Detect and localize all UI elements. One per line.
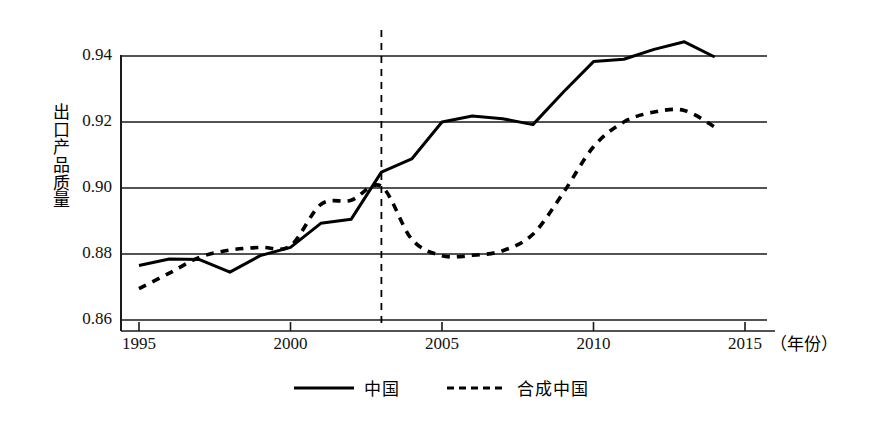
export-quality-line-chart: 出 口 产 品 质 量 0.860.880.900.920.94 1995200… <box>0 0 882 424</box>
legend-dashed-line-icon <box>446 382 508 394</box>
x-axis-ticks <box>139 322 745 331</box>
legend-solid-line-icon <box>293 382 355 394</box>
legend-item-synthetic-china: 合成中国 <box>446 375 589 400</box>
x-tick-label: 2010 <box>559 334 629 354</box>
axis-frame <box>121 55 775 331</box>
y-axis-label-char: 品 <box>48 157 74 175</box>
legend-label-synthetic-china: 合成中国 <box>517 375 589 400</box>
x-tick-label: 2005 <box>407 334 477 354</box>
legend-label-china: 中国 <box>364 375 400 400</box>
x-axis-unit-label: （年份） <box>770 330 838 355</box>
chart-legend: 中国 合成中国 <box>0 375 882 400</box>
y-tick-label: 0.92 <box>52 111 112 131</box>
y-axis-label-char: 产 <box>48 139 74 157</box>
x-tick-label: 2000 <box>256 334 326 354</box>
gridlines <box>121 56 767 320</box>
y-tick-label: 0.88 <box>52 243 112 263</box>
chart-canvas <box>0 0 882 424</box>
data-series-group <box>139 42 715 289</box>
y-tick-label: 0.90 <box>52 177 112 197</box>
y-tick-label: 0.86 <box>52 309 112 329</box>
series-line-china <box>139 42 715 272</box>
y-tick-label: 0.94 <box>52 45 112 65</box>
series-line-synthetic-china <box>139 109 715 288</box>
x-tick-label: 1995 <box>104 334 174 354</box>
legend-item-china: 中国 <box>293 375 400 400</box>
